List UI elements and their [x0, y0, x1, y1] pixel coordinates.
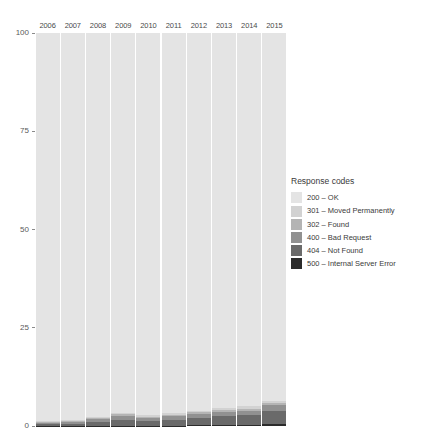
legend-label: 200 – OK — [307, 194, 339, 202]
bar-slot — [211, 33, 236, 426]
legend-swatch — [291, 245, 302, 256]
legend-swatch — [291, 258, 302, 269]
bar-slot — [161, 33, 186, 426]
x-axis-label: 2011 — [161, 20, 186, 32]
stacked-bar[interactable] — [212, 33, 236, 426]
bar-slot — [237, 33, 262, 426]
x-axis-label: 2015 — [262, 20, 287, 32]
legend-item[interactable]: 500 – Internal Server Error — [291, 257, 421, 270]
bar-segment-200 — [262, 33, 286, 401]
bar-segment-200 — [86, 33, 110, 417]
y-axis-tick-label: 0 — [25, 422, 29, 430]
bar-slot — [136, 33, 161, 426]
bar-slot — [35, 33, 60, 426]
legend-label: 404 – Not Found — [307, 247, 363, 255]
x-axis-label: 2009 — [111, 20, 136, 32]
bar-segment-500 — [262, 424, 286, 426]
bar-slot — [111, 33, 136, 426]
legend-title: Response codes — [291, 177, 421, 186]
y-axis-tick-label: 50 — [20, 226, 29, 234]
y-axis: 0255075100 — [0, 33, 35, 426]
x-axis-year-labels: 2006200720082009201020112012201320142015 — [35, 20, 287, 32]
bar-segment-200 — [187, 33, 211, 411]
y-axis-tick-label: 100 — [16, 29, 29, 37]
legend-items: 200 – OK301 – Moved Permanently302 – Fou… — [291, 191, 421, 270]
legend-label: 301 – Moved Permanently — [307, 207, 395, 215]
legend-label: 400 – Bad Request — [307, 234, 371, 242]
stacked-bar[interactable] — [136, 33, 160, 426]
bar-group — [35, 33, 287, 426]
bar-segment-200 — [136, 33, 160, 415]
legend-item[interactable]: 200 – OK — [291, 191, 421, 204]
y-axis-tick-label: 25 — [20, 324, 29, 332]
bar-segment-200 — [36, 33, 60, 421]
bar-slot — [60, 33, 85, 426]
legend-item[interactable]: 404 – Not Found — [291, 244, 421, 257]
x-axis-label: 2006 — [35, 20, 60, 32]
stacked-bar[interactable] — [86, 33, 110, 426]
stacked-bar[interactable] — [36, 33, 60, 426]
bar-segment-404 — [187, 418, 211, 425]
stacked-bar[interactable] — [187, 33, 211, 426]
bar-segment-404 — [212, 416, 236, 425]
x-axis-label: 2008 — [85, 20, 110, 32]
bar-segment-200 — [237, 33, 261, 406]
x-axis-label: 2014 — [237, 20, 262, 32]
bar-segment-404 — [262, 411, 286, 424]
plot-area — [35, 33, 287, 426]
x-axis-label: 2010 — [136, 20, 161, 32]
bar-segment-500 — [237, 425, 261, 426]
stacked-bar[interactable] — [237, 33, 261, 426]
stacked-bar-chart: 0255075100 20062007200820092010201120122… — [0, 0, 423, 447]
x-axis-label: 2013 — [211, 20, 236, 32]
stacked-bar[interactable] — [262, 33, 286, 426]
bar-segment-200 — [212, 33, 236, 408]
bar-segment-200 — [61, 33, 85, 420]
bar-segment-500 — [187, 425, 211, 426]
legend-swatch — [291, 219, 302, 230]
legend: Response codes 200 – OK301 – Moved Perma… — [291, 177, 421, 270]
x-axis-label: 2007 — [60, 20, 85, 32]
legend-label: 302 – Found — [307, 221, 349, 229]
bar-segment-500 — [212, 425, 236, 426]
bar-segment-200 — [111, 33, 135, 413]
x-axis-label: 2012 — [186, 20, 211, 32]
y-axis-tick-label: 75 — [20, 127, 29, 135]
legend-item[interactable]: 302 – Found — [291, 218, 421, 231]
legend-item[interactable]: 301 – Moved Permanently — [291, 205, 421, 218]
stacked-bar[interactable] — [61, 33, 85, 426]
bar-slot — [186, 33, 211, 426]
bar-slot — [85, 33, 110, 426]
bar-segment-404 — [237, 415, 261, 425]
legend-swatch — [291, 206, 302, 217]
stacked-bar[interactable] — [162, 33, 186, 426]
legend-item[interactable]: 400 – Bad Request — [291, 231, 421, 244]
legend-label: 500 – Internal Server Error — [307, 260, 396, 268]
legend-swatch — [291, 192, 302, 203]
bar-slot — [262, 33, 287, 426]
bar-segment-200 — [162, 33, 186, 413]
legend-swatch — [291, 232, 302, 243]
stacked-bar[interactable] — [111, 33, 135, 426]
